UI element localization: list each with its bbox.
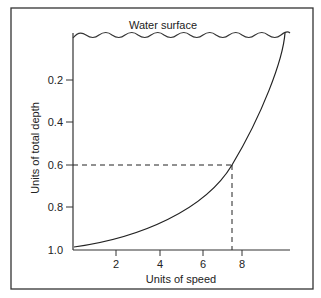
y-tick-label: 0.2 — [48, 74, 63, 86]
velocity-curve — [74, 33, 285, 247]
x-tick-label: 8 — [239, 258, 245, 270]
y-axis-label: Units of total depth — [29, 102, 41, 194]
x-axis-label: Units of speed — [146, 273, 216, 285]
x-tick-label: 2 — [113, 258, 119, 270]
depth-speed-diagram: Water surface 0.2 0.4 0.6 0.8 1.0 2 4 6 … — [0, 0, 321, 298]
y-tick-label: 0.8 — [48, 201, 63, 213]
y-tick-label: 0.6 — [48, 159, 63, 171]
x-ticks — [116, 250, 242, 256]
water-surface-label: Water surface — [129, 19, 197, 31]
y-ticks — [66, 80, 73, 207]
y-tick-label: 1.0 — [48, 244, 63, 256]
x-tick-label: 4 — [157, 258, 163, 270]
y-tick-label: 0.4 — [48, 116, 63, 128]
x-tick-label: 6 — [200, 258, 206, 270]
water-surface-wave — [73, 32, 290, 38]
